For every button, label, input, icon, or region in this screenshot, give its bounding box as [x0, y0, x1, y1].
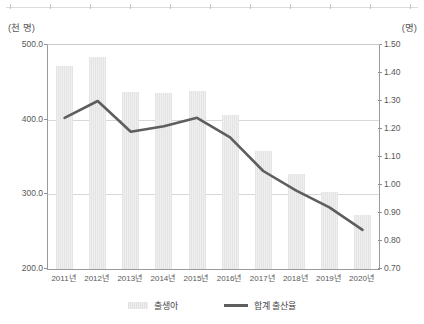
x-tick-label-2015년: 2015년: [179, 272, 213, 283]
x-tick-label-2013년: 2013년: [113, 272, 147, 283]
right-tick-label: 1.00: [384, 179, 401, 189]
right-tick-label: 1.40: [384, 67, 401, 77]
ruler-line: [6, 7, 418, 8]
right-tick-label: 0.80: [384, 235, 401, 245]
fertility-rate-polyline: [65, 101, 363, 230]
birth-rate-chart: (천 명) (명) 500.0400.0300.0200.0 1.501.401…: [0, 0, 424, 324]
x-tick-label-2012년: 2012년: [80, 272, 114, 283]
bar-swatch-icon: [128, 302, 148, 309]
ruler-tick: [410, 4, 411, 9]
ruler-tick: [330, 4, 331, 9]
line-swatch-icon: [224, 304, 248, 307]
ruler-tick: [10, 4, 11, 9]
legend-entry-fertility-rate: 합계 출산율: [224, 299, 297, 312]
plot-area: [47, 44, 380, 270]
ruler-tick: [370, 4, 371, 9]
ruler-tick: [130, 4, 131, 9]
left-tick-label: 300.0: [22, 188, 43, 198]
left-axis-unit-label: (천 명): [8, 20, 35, 34]
right-tick-label: 1.50: [384, 39, 401, 49]
right-axis-unit-label: (명): [402, 20, 417, 34]
ruler-tick: [170, 4, 171, 9]
ruler-tick: [90, 4, 91, 9]
ruler-tick: [250, 4, 251, 9]
ruler-tick: [290, 4, 291, 9]
right-tick-label: 0.70: [384, 263, 401, 273]
left-tick-label: 200.0: [22, 263, 43, 273]
x-tick-label-2017년: 2017년: [245, 272, 279, 283]
chart-legend: 출생아 합계 출산율: [0, 299, 424, 312]
line-series-total-fertility-rate: [48, 45, 379, 269]
right-tick-label: 1.30: [384, 95, 401, 105]
legend-entry-births: 출생아: [128, 299, 178, 312]
right-tick-label: 1.10: [384, 151, 401, 161]
right-tick-label: 0.90: [384, 207, 401, 217]
x-tick-label-2014년: 2014년: [146, 272, 180, 283]
ruler-tick: [210, 4, 211, 9]
x-tick-label-2016년: 2016년: [212, 272, 246, 283]
ruler-tick: [50, 4, 51, 9]
x-tick-label-2011년: 2011년: [47, 272, 81, 283]
left-tick-label: 400.0: [22, 114, 43, 124]
legend-label-fertility-rate: 합계 출산율: [254, 299, 297, 312]
legend-label-births: 출생아: [154, 299, 178, 312]
left-tick-label: 500.0: [22, 39, 43, 49]
top-ruler-strip: [0, 0, 424, 14]
right-tick-label: 1.20: [384, 123, 401, 133]
x-tick-label-2018년: 2018년: [278, 272, 312, 283]
x-tick-label-2019년: 2019년: [311, 272, 345, 283]
x-tick-label-2020년: 2020년: [345, 272, 379, 283]
